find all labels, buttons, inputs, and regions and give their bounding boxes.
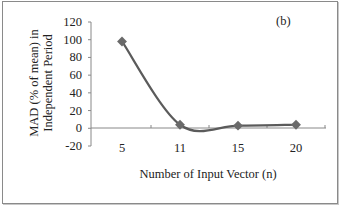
y-tick-label: 80: [70, 50, 83, 64]
y-tick-label: 100: [63, 33, 82, 47]
y-tick-label: 40: [70, 86, 83, 100]
y-tick-label: -20: [65, 139, 82, 153]
y-ticks: 120100806040200-20: [63, 15, 91, 153]
data-markers: [117, 37, 301, 131]
y-axis-label-line1: MAD (% of mean) in: [27, 28, 41, 136]
x-tick-label: 11: [174, 141, 186, 155]
x-ticks: 5111520: [119, 125, 325, 155]
line-chart: 120100806040200-20 5111520 (b) Number of…: [0, 0, 340, 206]
x-tick-label: 15: [232, 141, 245, 155]
x-axis-label: Number of Input Vector (n): [139, 167, 276, 181]
y-tick-label: 20: [70, 104, 83, 118]
series-line: [122, 41, 296, 131]
y-tick-label: 60: [70, 68, 83, 82]
x-tick-label: 20: [290, 141, 303, 155]
data-point-marker: [233, 121, 243, 131]
x-tick-label: 5: [119, 141, 125, 155]
panel-label: (b): [276, 14, 291, 28]
y-tick-label: 0: [76, 121, 82, 135]
y-tick-label: 120: [63, 15, 82, 29]
y-axis-label-line2: Independent Period: [41, 33, 55, 131]
